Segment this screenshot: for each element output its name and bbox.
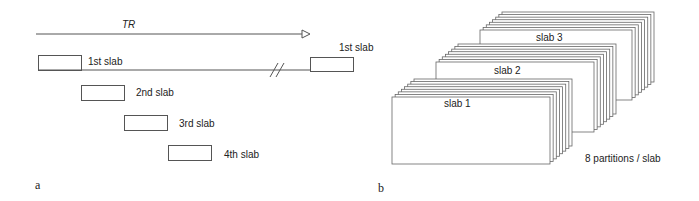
slab-box-repeat xyxy=(311,58,354,72)
slab3-label: slab 3 xyxy=(536,33,563,43)
partition xyxy=(392,97,550,164)
tr-arrow-head xyxy=(302,30,310,38)
panel-a-graphics xyxy=(36,30,354,161)
diagram-canvas xyxy=(0,0,699,201)
panel-letter-a: a xyxy=(35,178,40,193)
slab-label-1: 1st slab xyxy=(88,57,122,67)
slab-box-1 xyxy=(39,56,82,71)
slab-label-repeat: 1st slab xyxy=(339,43,373,53)
panel-b-graphics xyxy=(392,12,654,164)
slab-label-2: 2nd slab xyxy=(136,88,174,98)
slab2-label: slab 2 xyxy=(494,66,521,76)
slab-label-4: 4th slab xyxy=(224,150,259,160)
slab-box-4 xyxy=(169,146,212,161)
slab-box-3 xyxy=(125,116,168,131)
slab1-label: slab 1 xyxy=(444,99,471,109)
slab-box-2 xyxy=(82,86,125,101)
panel-letter-b: b xyxy=(378,181,384,196)
partitions-label: 8 partitions / slab xyxy=(585,154,661,164)
tr-label: TR xyxy=(122,20,135,30)
slab-stack-1 xyxy=(392,79,572,164)
slab-label-3: 3rd slab xyxy=(179,119,215,129)
